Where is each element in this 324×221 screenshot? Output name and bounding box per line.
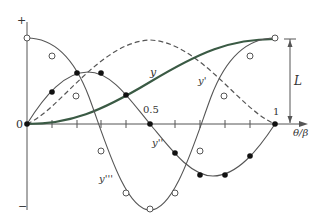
x-label-half: 0.5 [143,104,159,115]
y-minus-label: − [18,200,27,213]
y-plus-label: + [17,14,26,27]
bracket-arrow-up-icon [288,40,293,47]
curve-label-y: y [149,66,157,79]
x-axis-label: θ/β [293,127,308,138]
x-label-one: 1 [273,106,279,117]
amplitude-label: L [293,74,302,88]
bracket-arrow-down-icon [288,116,293,123]
curve-label-y-triple-prime: y''' [98,173,113,184]
curve-label-y-prime: y' [197,75,206,86]
curve-label-y-double-prime: y'' [151,137,163,148]
cam-motion-diagram: + − 0 0.5 1 θ/β L y y' y'' y''' [0,0,324,221]
origin-label: 0 [16,118,23,131]
